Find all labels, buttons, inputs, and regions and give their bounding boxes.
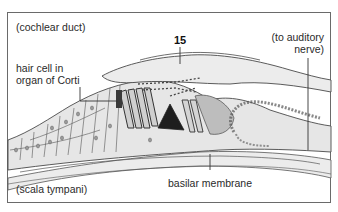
label-scala-tympani: (scala tympani) [16,183,87,195]
label-number-15: 15 [174,34,186,46]
hair-cell-dark-band [116,90,122,108]
label-basilar-membrane: basilar membrane [168,177,252,189]
label-auditory-nerve-line1: (to auditory [271,31,324,43]
label-auditory-nerve-line2: nerve) [294,43,324,55]
label-hair-cell-line2: organ of Corti [16,74,80,86]
label-hair-cell-line1: hair cell in [16,62,63,74]
label-cochlear-duct: (cochlear duct) [16,21,85,33]
